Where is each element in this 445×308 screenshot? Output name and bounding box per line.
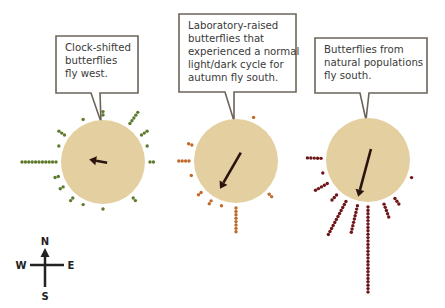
bubble-text-line: natural populations — [324, 57, 423, 68]
butterfly-heading-dot — [128, 122, 131, 125]
compass-south-label: S — [41, 291, 48, 302]
butterfly-heading-dot — [57, 129, 60, 132]
butterfly-heading-dot — [145, 129, 148, 132]
butterfly-heading-dot — [335, 193, 338, 196]
butterfly-heading-dot — [366, 226, 369, 229]
butterfly-heading-dot — [366, 290, 369, 293]
butterfly-heading-dot — [320, 185, 323, 188]
butterfly-heading-dot — [208, 202, 211, 205]
butterfly-heading-dot — [366, 212, 369, 215]
butterfly-heading-dot — [306, 156, 309, 159]
butterfly-heading-dot — [81, 118, 84, 121]
butterfly-heading-dot — [366, 287, 369, 290]
butterfly-heading-dot — [220, 204, 223, 207]
butterfly-heading-dot — [101, 110, 104, 113]
butterfly-heading-dot — [351, 224, 354, 227]
butterfly-heading-dot — [130, 119, 133, 122]
butterfly-heading-dot — [366, 253, 369, 256]
butterfly-heading-dot — [61, 185, 64, 188]
panel-clock-shifted: Clock-shiftedbutterfliesfly west. — [20, 36, 155, 211]
bubble-text-line: Clock-shifted — [65, 42, 131, 53]
butterfly-heading-dot — [353, 217, 356, 220]
butterfly-heading-dot — [234, 217, 237, 220]
butterfly-heading-dot — [48, 160, 51, 163]
butterfly-heading-dot — [366, 216, 369, 219]
butterfly-heading-dot — [333, 221, 336, 224]
butterfly-heading-dot — [101, 207, 104, 210]
butterfly-heading-dot — [356, 204, 359, 207]
butterfly-heading-dot — [395, 200, 398, 203]
butterfly-heading-dot — [34, 160, 37, 163]
butterfly-heading-dot — [366, 236, 369, 239]
butterfly-heading-dot — [314, 189, 317, 192]
butterfly-heading-dot — [350, 231, 353, 234]
butterfly-heading-dot — [410, 176, 413, 179]
butterfly-heading-dot — [385, 209, 388, 212]
butterfly-heading-dot — [234, 223, 237, 226]
butterfly-heading-dot — [366, 280, 369, 283]
butterfly-heading-dot — [152, 160, 155, 163]
butterfly-heading-dot — [326, 182, 329, 185]
butterfly-heading-dot — [24, 160, 27, 163]
butterfly-heading-dot — [190, 174, 193, 177]
butterfly-heading-dot — [81, 203, 84, 206]
butterfly-heading-dot — [63, 133, 66, 136]
butterfly-heading-dot — [136, 111, 139, 114]
butterfly-heading-dot — [366, 243, 369, 246]
butterfly-heading-dot — [234, 206, 237, 209]
butterfly-heading-dot — [366, 270, 369, 273]
butterfly-heading-dot — [341, 206, 344, 209]
butterfly-heading-dot — [366, 273, 369, 276]
butterfly-heading-dot — [335, 218, 338, 221]
butterfly-heading-dot — [27, 160, 30, 163]
butterfly-heading-dot — [268, 193, 271, 196]
butterfly-heading-dot — [234, 220, 237, 223]
panel-lab-raised: Laboratory-raisedbutterflies thatexperie… — [177, 14, 299, 234]
compass-rose: N S W E — [15, 236, 74, 302]
butterfly-heading-dot — [187, 142, 190, 145]
butterfly-heading-dot — [323, 184, 326, 187]
butterfly-heading-dot — [181, 159, 184, 162]
butterfly-heading-dot — [339, 209, 342, 212]
butterfly-heading-dot — [366, 277, 369, 280]
butterfly-heading-dot — [366, 233, 369, 236]
butterfly-heading-dot — [343, 203, 346, 206]
butterfly-heading-dot — [234, 227, 237, 230]
butterfly-heading-dot — [328, 230, 331, 233]
butterfly-heading-dot — [59, 187, 62, 190]
butterfly-heading-dot — [366, 260, 369, 263]
butterfly-heading-dot — [270, 195, 273, 198]
butterfly-heading-dot — [366, 246, 369, 249]
butterfly-heading-dot — [354, 211, 357, 214]
butterfly-heading-dot — [51, 160, 54, 163]
butterfly-heading-dot — [366, 267, 369, 270]
butterfly-heading-dot — [177, 159, 180, 162]
migration-orientation-figure: Clock-shiftedbutterfliesfly west.Laborat… — [0, 0, 445, 308]
butterfly-heading-dot — [366, 284, 369, 287]
butterfly-heading-dot — [336, 215, 339, 218]
butterfly-heading-dot — [209, 199, 212, 202]
butterfly-heading-dot — [331, 224, 334, 227]
butterfly-heading-dot — [20, 160, 23, 163]
bubble-text-line: Butterflies from — [324, 44, 404, 55]
butterfly-heading-dot — [330, 227, 333, 230]
butterfly-heading-dot — [366, 229, 369, 232]
butterfly-heading-dot — [352, 221, 355, 224]
bubble-text-line: butterflies that — [188, 33, 264, 44]
bubble-text-line: fly south. — [324, 70, 371, 81]
butterfly-heading-dot — [53, 176, 56, 179]
north-arrow-icon — [41, 248, 50, 257]
butterfly-heading-dot — [350, 227, 353, 230]
bubble-text-line: light/dark cycle for — [188, 59, 284, 70]
bubble-text-line: autumn fly south. — [188, 72, 278, 83]
butterfly-heading-dot — [234, 213, 237, 216]
butterfly-heading-dot — [317, 187, 320, 190]
butterfly-heading-dot — [71, 196, 74, 199]
butterfly-heading-dot — [327, 233, 330, 236]
butterfly-heading-dot — [148, 160, 151, 163]
bubble-text-line: Laboratory-raised — [188, 20, 278, 31]
butterfly-heading-dot — [143, 131, 146, 134]
butterfly-heading-dot — [344, 200, 347, 203]
bubble-text-line: experienced a normal — [188, 46, 299, 57]
butterfly-heading-dot — [252, 116, 255, 119]
